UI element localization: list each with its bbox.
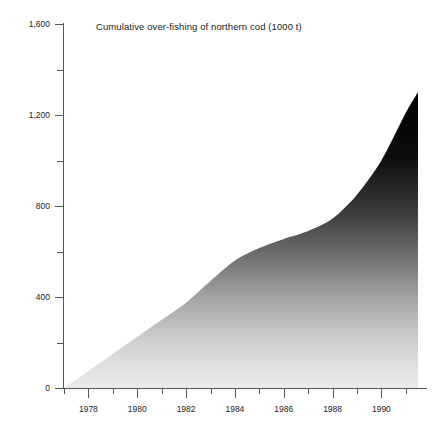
x-axis-tick-minor [113,389,114,394]
area-series-cumulative-overfishing [64,24,418,388]
y-axis-tick-major [55,115,64,116]
chart-container: Cumulative over-fishing of northern cod … [0,0,444,444]
y-axis-tick-label: 800 [0,202,50,211]
x-axis-tick-minor [211,389,212,394]
x-axis-tick-major [381,389,382,398]
x-axis-tick-label: 1990 [361,404,401,414]
x-axis-tick-minor [259,389,260,394]
x-axis-tick-major [333,389,334,398]
y-axis-tick-minor [57,161,64,162]
x-axis-tick-label: 1978 [68,404,108,414]
x-axis-tick-label: 1982 [166,404,206,414]
x-axis-tick-minor [162,389,163,394]
x-axis-tick-major [88,389,89,398]
y-axis-tick-major [55,388,64,389]
x-axis-tick-label: 1988 [313,404,353,414]
x-axis-tick-minor [64,389,65,394]
x-axis-tick-major [284,389,285,398]
y-axis-tick-label: 1,600 [0,20,50,29]
x-axis-tick-label: 1986 [264,404,304,414]
y-axis-tick-minor [57,70,64,71]
y-axis-tick-minor [57,252,64,253]
y-axis-tick-label: 400 [0,293,50,302]
x-axis-tick-major [137,389,138,398]
x-axis-tick-label: 1984 [215,404,255,414]
y-axis-tick-minor [57,343,64,344]
plot-area [64,24,418,388]
x-axis-line [63,388,427,389]
x-axis-tick-minor [357,389,358,394]
x-axis-tick-major [235,389,236,398]
x-axis-tick-minor [406,389,407,394]
y-axis-tick-major [55,206,64,207]
y-axis-tick-label: 1,200 [0,111,50,120]
y-axis-tick-major [55,24,64,25]
y-axis-tick-label: 0 [0,384,50,393]
x-axis-tick-label: 1980 [117,404,157,414]
y-axis-tick-major [55,297,64,298]
x-axis-tick-minor [308,389,309,394]
x-axis-tick-major [186,389,187,398]
